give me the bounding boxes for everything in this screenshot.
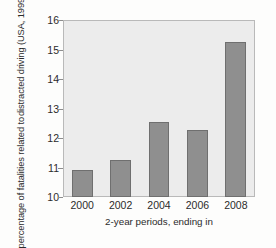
- y-axis-tick-mark: [58, 50, 63, 51]
- y-axis-tick-mark: [58, 79, 63, 80]
- y-axis-tick-mark: [58, 168, 63, 169]
- x-axis-tick-label: 2006: [178, 199, 216, 211]
- bar-slot: [217, 20, 255, 197]
- bar-slot: [178, 20, 216, 197]
- y-axis-tick-mark: [58, 138, 63, 139]
- y-axis-label-line-2: distracted driving (USA, 1999–2008): [16, 0, 27, 116]
- bar-series: [63, 20, 255, 197]
- x-axis-tick-label: 2002: [101, 199, 139, 211]
- x-axis-tick-label: 2000: [63, 199, 101, 211]
- x-axis-tick-labels: 20002002200420062008: [63, 199, 255, 211]
- bar-slot: [63, 20, 101, 197]
- y-axis-label-line-1: percentage of fatalities related to: [16, 117, 27, 248]
- bar-slot: [140, 20, 178, 197]
- x-axis-tick-label: 2008: [217, 199, 255, 211]
- bar-2008: [225, 42, 246, 197]
- bar-2006: [187, 130, 208, 197]
- y-axis-tick-mark: [58, 197, 63, 198]
- bar-slot: [101, 20, 139, 197]
- bar-2002: [110, 160, 131, 197]
- x-axis-tick-label: 2004: [140, 199, 178, 211]
- x-axis-label: 2-year periods, ending in: [63, 216, 255, 227]
- y-axis-tick-mark: [58, 109, 63, 110]
- y-axis-label: percentage of fatalities related to dist…: [8, 18, 34, 200]
- bar-2000: [72, 170, 93, 197]
- bar-2004: [149, 122, 170, 197]
- y-axis-tick-mark: [58, 20, 63, 21]
